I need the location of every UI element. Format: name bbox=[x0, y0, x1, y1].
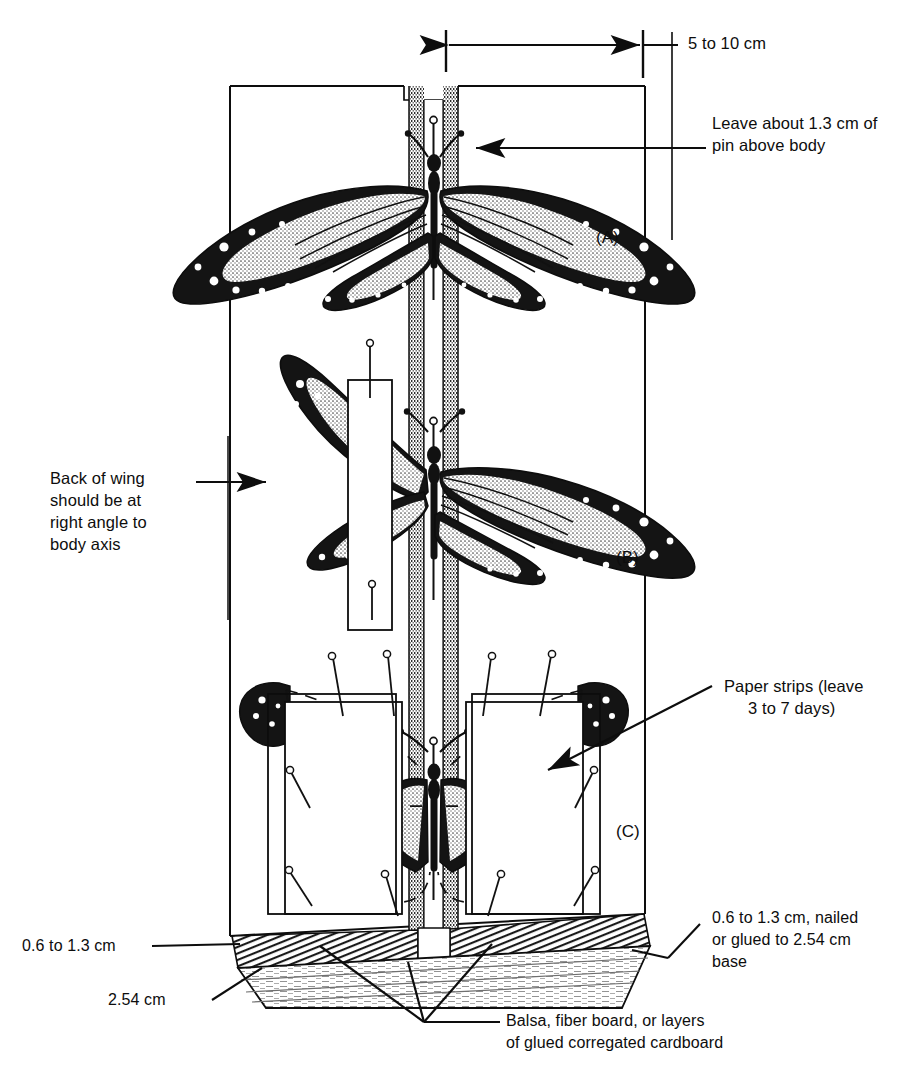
callout-top-layer-right-line1: 0.6 to 1.3 cm, nailed bbox=[712, 908, 858, 929]
callout-base-thickness: 2.54 cm bbox=[108, 990, 166, 1011]
callout-paper-strips-line2: 3 to 7 days) bbox=[748, 698, 835, 719]
callout-top-layer-right-line2: or glued to 2.54 cm bbox=[712, 930, 851, 951]
butterfly-specimen-a bbox=[173, 116, 694, 310]
part-label-b: (B) bbox=[616, 548, 639, 568]
callout-paper-strips-line1: Paper strips (leave bbox=[724, 676, 863, 697]
base-assembly bbox=[232, 914, 650, 1008]
callout-pin-height-line2: pin above body bbox=[712, 135, 825, 156]
part-label-a: (A) bbox=[596, 228, 619, 248]
callout-base-material-line1: Balsa, fiber board, or layers bbox=[506, 1011, 705, 1032]
butterfly-specimen-b bbox=[280, 340, 694, 630]
paper-strip-b bbox=[348, 340, 392, 630]
top-width-dimension bbox=[446, 30, 678, 78]
callout-top-layer-left: 0.6 to 1.3 cm bbox=[22, 936, 116, 957]
callout-wing-angle-line3: right angle to bbox=[50, 512, 147, 533]
callout-wing-angle-line2: should be at bbox=[50, 490, 141, 511]
callout-wing-angle-line1: Back of wing bbox=[50, 468, 145, 489]
figure-canvas: 5 to 10 cm Leave about 1.3 cm of pin abo… bbox=[0, 0, 918, 1077]
part-label-c: (C) bbox=[616, 822, 640, 842]
callout-wing-angle-line4: body axis bbox=[50, 534, 121, 555]
callout-base-material-line2: of glued corregated cardboard bbox=[506, 1033, 723, 1054]
dimension-label-top-width: 5 to 10 cm bbox=[688, 33, 766, 54]
callout-top-layer-right-line3: base bbox=[712, 952, 747, 973]
callout-pin-height-line1: Leave about 1.3 cm of bbox=[712, 113, 877, 134]
leader-top-layer-left bbox=[152, 944, 240, 946]
